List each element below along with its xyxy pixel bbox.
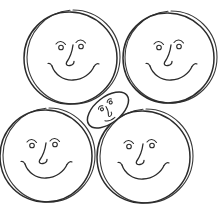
face-top-right-right-eye <box>177 44 182 49</box>
face-bottom-right-right-eye <box>150 143 155 148</box>
line-art-drawing <box>0 0 220 209</box>
face-bottom-left-left-eye <box>30 143 35 148</box>
face-bottom-right-left-eye <box>127 144 132 149</box>
face-bottom-left-fill <box>3 109 95 201</box>
face-top-right-left-eye <box>157 45 162 50</box>
face-top-left-left-eye <box>59 45 64 50</box>
face-bottom-left-right-eye <box>53 142 58 147</box>
illustration-canvas <box>0 0 220 209</box>
face-top-left-right-eye <box>79 44 84 49</box>
